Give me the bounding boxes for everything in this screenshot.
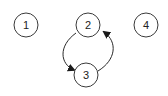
node-1-label: 1 bbox=[23, 19, 29, 31]
graph-diagram: 1 2 3 4 bbox=[0, 0, 168, 96]
edge-3-to-2 bbox=[98, 32, 113, 71]
node-1[interactable]: 1 bbox=[14, 13, 38, 37]
node-3-label: 3 bbox=[83, 69, 89, 81]
node-2-label: 2 bbox=[85, 19, 91, 31]
node-4[interactable]: 4 bbox=[134, 13, 158, 37]
node-4-label: 4 bbox=[143, 19, 149, 31]
node-2[interactable]: 2 bbox=[76, 13, 100, 37]
edge-2-to-3 bbox=[63, 33, 76, 70]
node-3[interactable]: 3 bbox=[74, 63, 98, 87]
